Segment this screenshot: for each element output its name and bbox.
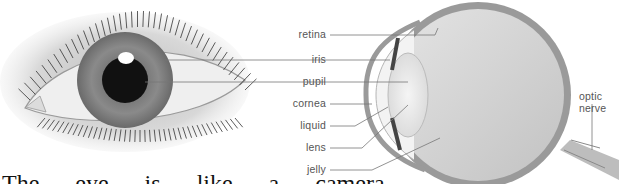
optic-nerve-shape	[560, 140, 619, 180]
lower-eyelash	[235, 118, 243, 127]
label-optic-nerve-line2: nerve	[579, 102, 606, 114]
caption-fragment: The eye is like a camera	[2, 170, 385, 184]
front-eye	[0, 11, 256, 152]
label-liquid: liquid	[278, 119, 326, 131]
label-pupil: pupil	[288, 75, 326, 87]
label-retina: retina	[288, 28, 326, 40]
label-optic-nerve-line1: optic	[579, 90, 602, 102]
eye-diagram: retina iris pupil cornea liquid lens jel…	[0, 0, 619, 184]
label-iris: iris	[288, 53, 326, 65]
label-cornea: cornea	[278, 97, 326, 109]
highlight	[118, 52, 134, 64]
label-lens: lens	[288, 141, 326, 153]
lower-eyelash	[226, 120, 233, 130]
